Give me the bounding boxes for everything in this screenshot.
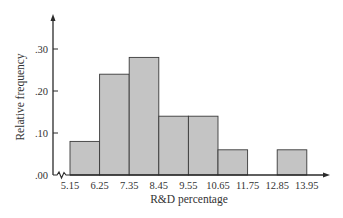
- histogram-bar: [277, 150, 307, 175]
- histogram-bar: [218, 150, 248, 175]
- x-axis-label: R&D percentage: [150, 193, 228, 206]
- y-tick-label: .30: [35, 44, 48, 55]
- x-axis-arrow-icon: [323, 173, 330, 178]
- y-axis-arrow-icon: [51, 14, 56, 21]
- x-axis-break-icon: [53, 172, 70, 178]
- x-tick-label: 12.85: [265, 180, 289, 191]
- y-ticks: .00.10.20.30: [35, 44, 58, 181]
- histogram-bars: [70, 57, 307, 175]
- x-tick-label: 5.15: [61, 180, 79, 191]
- x-ticks: 5.156.257.358.459.5510.6511.7512.8513.95: [61, 180, 319, 191]
- histogram-bar: [129, 57, 159, 175]
- x-tick-label: 7.35: [120, 180, 138, 191]
- histogram-chart: .00.10.20.30 5.156.257.358.459.5510.6511…: [0, 0, 343, 218]
- x-tick-label: 9.55: [179, 180, 197, 191]
- histogram-bar: [70, 141, 100, 175]
- x-tick-label: 6.25: [90, 180, 108, 191]
- histogram-bar: [188, 116, 218, 175]
- y-axis-label: Relative frequency: [14, 53, 27, 140]
- y-tick-label: .20: [35, 86, 48, 97]
- histogram-bar: [100, 74, 130, 175]
- x-tick-label: 13.95: [295, 180, 319, 191]
- histogram-bar: [159, 116, 189, 175]
- x-tick-label: 8.45: [150, 180, 168, 191]
- x-tick-label: 11.75: [236, 180, 259, 191]
- y-tick-label: .00: [35, 170, 48, 181]
- y-tick-label: .10: [35, 128, 48, 139]
- x-tick-label: 10.65: [206, 180, 230, 191]
